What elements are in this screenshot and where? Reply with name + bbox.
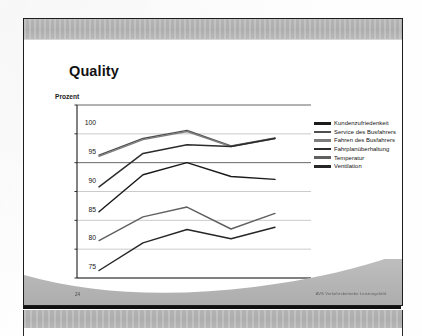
slide-divider	[23, 306, 401, 309]
legend-color-swatch	[314, 122, 331, 125]
chart-legend: KundenzufriedenkeitService des Busfahrer…	[314, 119, 396, 171]
legend-color-swatch	[314, 131, 331, 134]
legend-item-label: Fahrplanüberhaltung	[334, 146, 389, 152]
legend-item: Ventilation	[314, 162, 396, 171]
legend-color-swatch	[314, 139, 331, 142]
y-axis-tick-label: 95	[70, 148, 96, 155]
presentation-slide: Quality Prozent 707580859095100 20002001…	[23, 18, 403, 306]
slide-footer-text: AVS Verkehrsbetriebe Leistungsfeld	[316, 291, 386, 296]
y-axis-tick-label: 85	[70, 206, 96, 213]
footer-swoosh-graphic	[24, 259, 402, 305]
legend-item-label: Ventilation	[334, 163, 362, 169]
legend-item-label: Temperatur	[334, 155, 364, 161]
next-slide-preview	[23, 310, 403, 336]
legend-item-label: Service des Busfahrers	[334, 129, 396, 135]
legend-color-swatch	[314, 148, 331, 151]
slide-page-number: 24	[75, 292, 80, 297]
legend-item: Temperatur	[314, 153, 396, 162]
legend-color-swatch	[314, 165, 331, 168]
legend-item-label: Kundenzufriedenkeit	[334, 120, 389, 126]
slide-scan-page: Quality Prozent 707580859095100 20002001…	[0, 0, 422, 336]
legend-item: Kundenzufriedenkeit	[314, 119, 396, 128]
next-band-texture	[24, 310, 402, 328]
legend-item: Service des Busfahrers	[314, 128, 396, 137]
y-axis-tick-label: 80	[70, 234, 96, 241]
y-axis-tick-label: 100	[70, 119, 96, 126]
legend-item: Fahrplanüberhaltung	[314, 145, 396, 154]
legend-item: Fahren des Busfahrers	[314, 136, 396, 145]
legend-color-swatch	[314, 156, 331, 159]
y-axis-tick-label: 90	[70, 177, 96, 184]
legend-item-label: Fahren des Busfahrers	[334, 137, 395, 143]
next-slide-header-band	[24, 310, 402, 328]
